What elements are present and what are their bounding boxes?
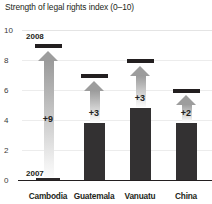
marker-2008-china <box>173 89 200 93</box>
y-tick-10: 10 <box>4 26 18 35</box>
delta-label-vanuatu: +3 <box>117 93 163 103</box>
category-label-china: China <box>161 191 211 201</box>
marker-2008-cambodia <box>35 44 62 48</box>
x-axis-line <box>18 180 212 181</box>
y-tick-6: 6 <box>4 86 18 95</box>
bar-2007-guatemala <box>84 123 105 180</box>
delta-label-guatemala: +3 <box>71 108 117 118</box>
annotation-2008: 2008 <box>26 32 44 41</box>
delta-label-cambodia: +9 <box>25 114 71 124</box>
plot-area: 10 8 6 4 2 0 +9 +3 <box>0 0 212 204</box>
category-label-guatemala: Guatemala <box>69 191 119 201</box>
marker-2008-guatemala <box>81 74 108 78</box>
category-label-vanuatu: Vanuatu <box>115 191 165 201</box>
gridline-10 <box>22 30 212 31</box>
y-tick-2: 2 <box>4 146 18 155</box>
y-tick-8: 8 <box>4 56 18 65</box>
delta-label-china: +2 <box>163 108 209 118</box>
bar-2007-vanuatu <box>130 108 151 180</box>
y-tick-4: 4 <box>4 116 18 125</box>
y-tick-0: 0 <box>4 176 18 185</box>
bar-2007-china <box>176 123 197 180</box>
annotation-2007: 2007 <box>26 169 44 178</box>
chart-container: Strength of legal rights index (0–10) 10… <box>0 0 212 204</box>
category-label-cambodia: Cambodia <box>23 191 73 201</box>
marker-2008-vanuatu <box>127 59 154 63</box>
